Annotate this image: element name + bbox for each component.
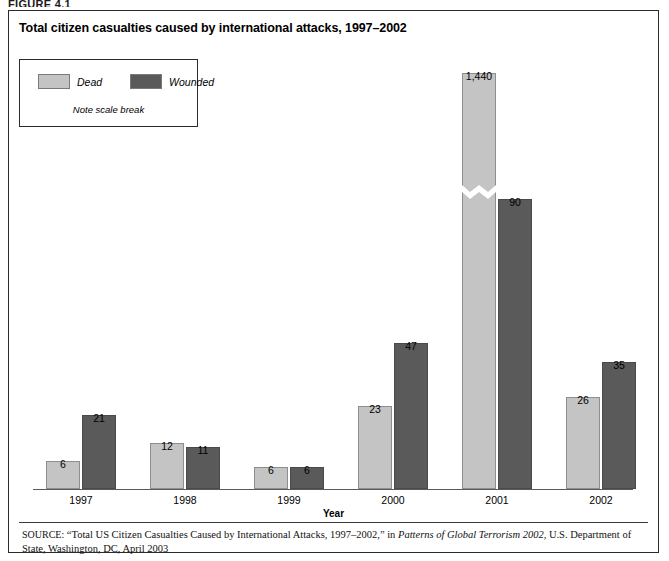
x-axis-baseline	[33, 489, 633, 490]
bar-wounded-2000[interactable]	[394, 343, 428, 489]
bar-value-wounded-1997: 21	[77, 412, 121, 424]
bar-value-wounded-2000: 47	[389, 340, 433, 352]
x-tick-label-2002: 2002	[566, 494, 636, 506]
bar-value-wounded-1998: 11	[181, 444, 225, 456]
plot-area: 621199712111998661999234720001,440902001…	[19, 35, 648, 490]
bar-dead-2001[interactable]	[462, 73, 496, 489]
source-publication-title: Patterns of Global Terrorism 2002	[398, 529, 544, 540]
bars	[566, 35, 636, 489]
bar-value-dead-2000: 23	[353, 403, 397, 415]
figure-frame: Total citizen casualties caused by inter…	[8, 10, 659, 553]
scale-break-marker	[462, 185, 496, 199]
x-tick-label-1999: 1999	[254, 494, 324, 506]
source-divider	[19, 522, 648, 523]
x-axis-title: Year	[9, 508, 658, 519]
bar-value-dead-1997: 6	[41, 458, 85, 470]
x-tick-label-2001: 2001	[462, 494, 532, 506]
bars	[150, 35, 220, 489]
bar-dead-2000[interactable]	[358, 406, 392, 489]
bars	[358, 35, 428, 489]
bar-group-1998: 12111998	[150, 35, 220, 489]
source-prefix: SOURCE:	[22, 529, 64, 540]
bar-value-wounded-1999: 6	[285, 464, 329, 476]
bars	[254, 35, 324, 489]
bar-value-dead-2002: 26	[561, 394, 605, 406]
bar-value-dead-2001: 1,440	[457, 70, 501, 82]
figure-number-label: FIGURE 4.1	[8, 0, 71, 7]
x-tick-label-1997: 1997	[46, 494, 116, 506]
bar-group-2000: 23472000	[358, 35, 428, 489]
bar-wounded-1997[interactable]	[82, 415, 116, 489]
bar-wounded-2001[interactable]	[498, 199, 532, 489]
x-tick-label-1998: 1998	[150, 494, 220, 506]
x-tick-label-2000: 2000	[358, 494, 428, 506]
bar-group-1999: 661999	[254, 35, 324, 489]
bar-group-2001: 1,440902001	[462, 35, 532, 489]
bar-group-2002: 26352002	[566, 35, 636, 489]
chart-title: Total citizen casualties caused by inter…	[19, 21, 407, 35]
bar-wounded-2002[interactable]	[602, 362, 636, 489]
source-text-before: “Total US Citizen Casualties Caused by I…	[64, 529, 398, 540]
bar-value-wounded-2001: 90	[493, 196, 537, 208]
bars	[462, 35, 532, 489]
bar-value-wounded-2002: 35	[597, 359, 641, 371]
bar-dead-2002[interactable]	[566, 397, 600, 489]
source-note: SOURCE: “Total US Citizen Casualties Cau…	[22, 528, 645, 556]
bar-group-1997: 6211997	[46, 35, 116, 489]
